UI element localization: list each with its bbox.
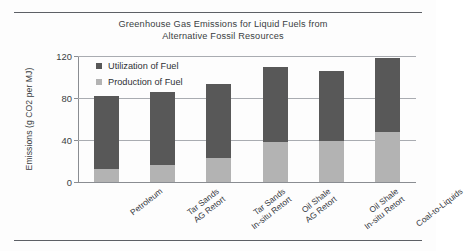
x-tick-label: Tar SandsIn-situ Retort [243,186,293,231]
bar-segment-utilization [150,92,175,166]
x-tick-label: Coal-to-Liquids [414,186,464,229]
y-tick-label-120: 120 [56,51,72,62]
bar-segment-production [206,158,231,182]
bar-segment-utilization [94,96,119,170]
x-tick-label: Oil ShaleIn-situ Retort [356,186,406,231]
bar-segment-production [319,141,344,182]
legend-item-label: Utilization of Fuel [108,61,178,71]
y-tick-label-40: 40 [62,135,72,146]
legend-item-label: Production of Fuel [108,77,183,87]
bar-segment-production [94,169,119,182]
bar-segment-utilization [206,84,231,158]
bar-segment-production [375,132,400,182]
legend-item[interactable]: Utilization of Fuel [96,60,183,71]
bar-group [150,92,175,182]
chart-title-line-2: Alternative Fossil Resources [58,30,388,42]
chart-title-line-1: Greenhouse Gas Emissions for Liquid Fuel… [58,18,388,30]
x-tick-label-line-1: Petroleum [128,186,164,217]
bar-segment-utilization [319,71,344,141]
bar-group [263,67,288,183]
bar-group [206,84,231,182]
bar-group [375,58,400,182]
y-axis-title-text: Emissions (g CO2 per MJ) [24,68,34,171]
legend-swatch-icon [96,79,102,85]
chart-legend: Utilization of FuelProduction of Fuel [96,60,183,92]
bar-group [319,71,344,182]
y-axis-title: Emissions (g CO2 per MJ) [22,56,36,182]
legend-item[interactable]: Production of Fuel [96,76,183,87]
x-tick-label: Petroleum [128,186,164,217]
x-tick-label: Tar SandsAG Retort [184,186,226,225]
x-tick-label: Oil ShaleAG Retort [297,186,339,225]
top-divider-rule [14,12,422,13]
chart-title: Greenhouse Gas Emissions for Liquid Fuel… [58,18,388,43]
legend-swatch-icon [96,63,102,69]
x-tick-label-line-1: Coal-to-Liquids [414,186,464,229]
x-axis-tick-labels: PetroleumTar SandsAG RetortTar SandsIn-s… [78,182,416,240]
bar-group [94,96,119,182]
bar-segment-utilization [263,67,288,143]
bar-segment-production [150,165,175,182]
bar-segment-utilization [375,58,400,132]
bottom-divider-rule [14,240,422,241]
y-tick-label-80: 80 [62,93,72,104]
bar-segment-production [263,142,288,182]
y-tick-label-0: 0 [67,177,72,188]
